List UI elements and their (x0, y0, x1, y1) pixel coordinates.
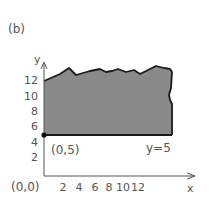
x-tick-label: 8 (106, 181, 113, 194)
y-tick-label: 4 (31, 136, 38, 149)
y-tick-label: 2 (31, 151, 38, 164)
y-tick-label: 12 (24, 74, 38, 87)
region-diagram: (b) y x 2 4 6 8 10 12 2 4 6 8 10 12 (0,0… (0, 0, 209, 200)
x-tick-label: 10 (116, 181, 130, 194)
corner-point (41, 132, 46, 137)
x-tick-label: 6 (92, 181, 99, 194)
x-tick-label: 12 (131, 181, 145, 194)
x-axis-label: x (187, 182, 194, 195)
y-tick-label: 10 (24, 90, 38, 103)
boundary-line-label: y=5 (146, 141, 171, 155)
figure-label: (b) (8, 22, 25, 36)
y-axis-label: y (34, 53, 41, 66)
x-tick-label: 4 (76, 181, 83, 194)
y-tick-label: 6 (31, 120, 38, 133)
x-tick-label: 2 (60, 181, 67, 194)
shaded-region (44, 66, 172, 135)
y-tick-label: 8 (31, 105, 38, 118)
corner-point-label: (0,5) (51, 143, 79, 157)
origin-label: (0,0) (11, 180, 39, 194)
